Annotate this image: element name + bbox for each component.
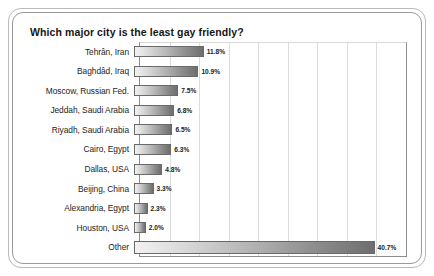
bar-track: 4.8%: [134, 159, 407, 179]
bar-track: 6.5%: [134, 120, 407, 140]
bar-track: 7.5%: [134, 81, 407, 101]
bar-row: Dallas, USA4.8%: [29, 159, 407, 179]
bar-row: Other40.7%: [29, 237, 407, 257]
bar-category-label: Tehrân, Iran: [29, 47, 134, 57]
bar-row: Riyadh, Saudi Arabia6.5%: [29, 120, 407, 140]
bar-row: Beijing, China3.3%: [29, 179, 407, 199]
bar-value-label: 10.9%: [201, 68, 220, 75]
bar-category-label: Alexandria, Egypt: [29, 203, 134, 213]
bar-row: Jeddah, Saudi Arabia6.8%: [29, 101, 407, 121]
bar-track: 6.8%: [134, 101, 407, 121]
bar-track: 6.3%: [134, 140, 407, 160]
bar[interactable]: [134, 66, 198, 77]
bar-row: Moscow, Russian Fed.7.5%: [29, 81, 407, 101]
bar-track: 11.8%: [134, 42, 407, 62]
bar[interactable]: [134, 203, 148, 214]
bar-row: Alexandria, Egypt2.3%: [29, 198, 407, 218]
bar-value-label: 6.8%: [177, 107, 192, 114]
bar[interactable]: [134, 222, 146, 233]
bar-rows: Tehrân, Iran11.8%Baghdâd, Iraq10.9%Mosco…: [29, 42, 407, 257]
bar-value-label: 3.3%: [157, 185, 172, 192]
bar[interactable]: [134, 124, 172, 135]
bar-row: Baghdâd, Iraq10.9%: [29, 62, 407, 82]
bar[interactable]: [134, 85, 178, 96]
bar-category-label: Dallas, USA: [29, 164, 134, 174]
chart-frame-outer: Which major city is the least gay friend…: [8, 8, 426, 268]
bar-track: 3.3%: [134, 179, 407, 199]
bar-value-label: 4.8%: [165, 166, 180, 173]
bar-track: 2.3%: [134, 198, 407, 218]
chart-frame-inner: Which major city is the least gay friend…: [12, 12, 422, 264]
bar[interactable]: [134, 46, 204, 57]
bar[interactable]: [134, 164, 162, 175]
bar-category-label: Cairo, Egypt: [29, 144, 134, 154]
bar-track: 40.7%: [134, 237, 407, 257]
bar-value-label: 6.3%: [174, 146, 189, 153]
chart-title: Which major city is the least gay friend…: [30, 26, 244, 38]
bar-category-label: Moscow, Russian Fed.: [29, 86, 134, 96]
bar-value-label: 11.8%: [207, 48, 225, 55]
bar-track: 2.0%: [134, 218, 407, 238]
bar-row: Cairo, Egypt6.3%: [29, 140, 407, 160]
bar-track: 10.9%: [134, 62, 407, 82]
bar-row: Houston, USA2.0%: [29, 218, 407, 238]
bar[interactable]: [134, 183, 154, 194]
bar-value-label: 2.3%: [151, 205, 166, 212]
chart-plot: Tehrân, Iran11.8%Baghdâd, Iraq10.9%Mosco…: [29, 42, 407, 257]
bar-value-label: 2.0%: [149, 224, 164, 231]
bar-category-label: Riyadh, Saudi Arabia: [29, 125, 134, 135]
bar-row: Tehrân, Iran11.8%: [29, 42, 407, 62]
bar[interactable]: [134, 241, 375, 254]
bar-category-label: Baghdâd, Iraq: [29, 66, 134, 76]
bar-category-label: Other: [29, 242, 134, 252]
bar-category-label: Jeddah, Saudi Arabia: [29, 105, 134, 115]
bar[interactable]: [134, 144, 171, 155]
bar-value-label: 7.5%: [181, 87, 196, 94]
bar[interactable]: [134, 105, 174, 116]
bar-value-label: 6.5%: [175, 126, 190, 133]
bar-category-label: Beijing, China: [29, 184, 134, 194]
bar-category-label: Houston, USA: [29, 223, 134, 233]
bar-value-label: 40.7%: [378, 244, 397, 251]
